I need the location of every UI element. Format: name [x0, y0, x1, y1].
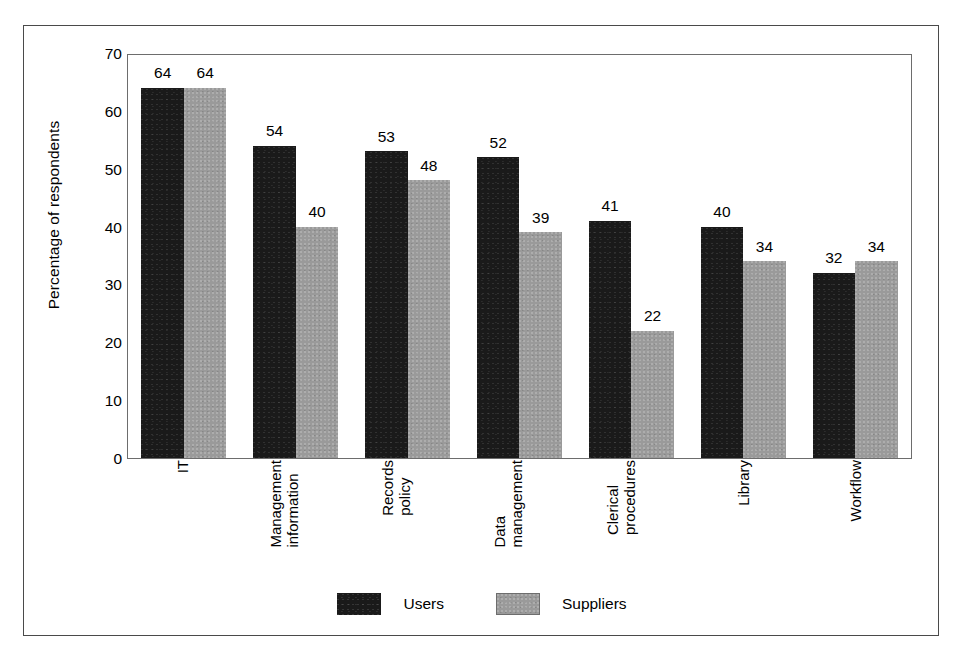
bar-suppliers[interactable]	[519, 232, 562, 458]
bar-group: 4122	[575, 55, 687, 458]
x-label-slot: IT	[127, 460, 239, 600]
bar-group: 5440	[240, 55, 352, 458]
plot-inner: 6464544053485239412240343234	[128, 55, 911, 458]
bar-users[interactable]	[253, 146, 296, 458]
figure-frame: Percentage of respondents 70605040302010…	[23, 25, 939, 636]
x-label-slot: Library	[688, 460, 800, 600]
x-axis-label-line: Workflow	[847, 460, 864, 521]
bar-value-label: 48	[420, 158, 437, 174]
bar-group: 6464	[128, 55, 240, 458]
y-tick-label: 10	[88, 392, 122, 410]
bar-value-label: 40	[308, 204, 325, 220]
bar-users[interactable]	[701, 227, 744, 458]
x-axis-label: Clericalprocedures	[605, 460, 639, 535]
y-axis-tick-labels: 706050403020100	[84, 26, 122, 635]
bar-users[interactable]	[477, 157, 520, 458]
y-tick-label: 0	[88, 450, 122, 468]
y-tick-label: 50	[88, 161, 122, 179]
bar-group: 5348	[352, 55, 464, 458]
bar-suppliers[interactable]	[855, 261, 898, 458]
bar-value-label: 53	[378, 129, 395, 145]
bar-suppliers[interactable]	[296, 227, 339, 458]
plot-area: 6464544053485239412240343234	[127, 54, 912, 459]
legend-label: Users	[403, 595, 443, 613]
x-axis-label-line: policy	[397, 460, 414, 516]
bar-value-label: 32	[825, 250, 842, 266]
bar-value-label: 34	[756, 239, 773, 255]
bar-value-label: 39	[532, 210, 549, 226]
bar-value-label: 64	[154, 65, 171, 81]
x-axis-label: Workflow	[848, 460, 865, 521]
bar-value-label: 64	[197, 65, 214, 81]
x-axis-label-line: Clerical	[604, 485, 621, 535]
x-axis-label-line: Library	[734, 460, 751, 506]
x-axis-label-line: management	[509, 460, 526, 548]
bar-suppliers[interactable]	[631, 331, 674, 458]
x-axis-label: Recordspolicy	[381, 460, 415, 516]
y-tick-label: 20	[88, 334, 122, 352]
x-axis-label: Datamanagement	[493, 460, 527, 548]
bar-suppliers[interactable]	[184, 88, 227, 458]
x-axis-label-line: information	[285, 460, 302, 548]
bar-value-label: 34	[868, 239, 885, 255]
y-axis-title: Percentage of respondents	[45, 35, 63, 395]
y-tick-label: 40	[88, 219, 122, 237]
y-tick-label: 60	[88, 103, 122, 121]
bar-users[interactable]	[589, 221, 632, 458]
bar-users[interactable]	[141, 88, 184, 458]
bar-suppliers[interactable]	[408, 180, 451, 458]
legend-swatch-suppliers	[496, 593, 540, 615]
bar-value-label: 22	[644, 308, 661, 324]
legend-item-suppliers[interactable]: Suppliers	[496, 593, 627, 615]
bar-suppliers[interactable]	[743, 261, 786, 458]
x-label-slot: Recordspolicy	[351, 460, 463, 600]
x-axis-label: IT	[175, 460, 192, 473]
bar-value-label: 54	[266, 123, 283, 139]
legend-item-users[interactable]: Users	[337, 593, 443, 615]
y-tick-label: 70	[88, 45, 122, 63]
x-axis-label-line: Management	[267, 460, 284, 548]
x-label-slot: Workflow	[800, 460, 912, 600]
y-tick-label: 30	[88, 276, 122, 294]
x-label-slot: Clericalprocedures	[576, 460, 688, 600]
bar-users[interactable]	[365, 151, 408, 458]
bar-group: 5239	[464, 55, 576, 458]
bar-value-label: 40	[713, 204, 730, 220]
x-axis-label: Managementinformation	[268, 460, 302, 548]
bar-group: 3234	[799, 55, 911, 458]
x-axis-label-line: Records	[380, 460, 397, 516]
x-label-slot: Managementinformation	[239, 460, 351, 600]
bar-value-label: 52	[490, 135, 507, 151]
x-axis-label-line: procedures	[622, 460, 639, 535]
legend-swatch-users	[337, 593, 381, 615]
x-axis-category-labels: ITManagementinformationRecordspolicyData…	[127, 460, 912, 600]
x-axis-label: Library	[735, 460, 752, 506]
x-axis-label-line: IT	[174, 460, 191, 473]
chart-canvas: Percentage of respondents 70605040302010…	[24, 26, 938, 635]
bar-users[interactable]	[813, 273, 856, 458]
x-axis-label-line: Data	[492, 516, 509, 548]
legend-label: Suppliers	[562, 595, 627, 613]
x-label-slot: Datamanagement	[463, 460, 575, 600]
bar-value-label: 41	[601, 198, 618, 214]
chart-legend: UsersSuppliers	[24, 593, 940, 615]
bar-group: 4034	[687, 55, 799, 458]
